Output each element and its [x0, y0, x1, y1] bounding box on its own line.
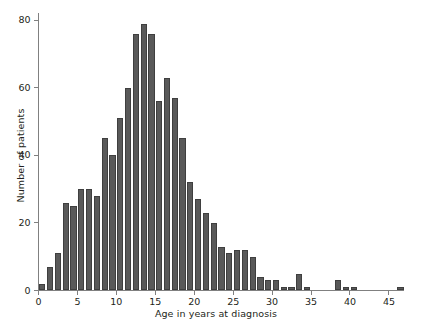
histogram-bar [172, 98, 178, 291]
x-tick [233, 291, 234, 295]
histogram-bar [242, 250, 248, 291]
x-tick-label: 40 [335, 297, 365, 307]
histogram-bar [304, 287, 310, 290]
histogram-bar [397, 287, 403, 290]
x-tick-label: 25 [218, 297, 248, 307]
y-tick-label: 80 [0, 15, 31, 25]
x-tick-label: 5 [62, 297, 92, 307]
y-tick-label: 60 [0, 83, 31, 93]
histogram-bar [179, 138, 185, 290]
histogram-bar [187, 182, 193, 290]
histogram-bar [250, 257, 256, 291]
histogram-bar [164, 78, 170, 291]
histogram-bar [226, 253, 232, 290]
histogram-bar [47, 267, 53, 291]
histogram-bar [117, 118, 123, 290]
histogram-bar [125, 88, 131, 291]
histogram-bar [148, 34, 154, 291]
plot-area: 020406080 051015202530354045 [0, 0, 434, 329]
y-tick-label: 40 [0, 150, 31, 160]
y-axis-line [38, 13, 39, 291]
histogram-bar [70, 206, 76, 290]
histogram-bar [156, 101, 162, 290]
histogram-bar [343, 287, 349, 290]
histogram-bar [265, 280, 271, 290]
histogram-figure: Number of patients Age in years at diagn… [0, 0, 434, 329]
y-tick-label: 0 [0, 286, 31, 296]
x-tick [349, 291, 350, 295]
x-tick [388, 291, 389, 295]
x-tick-label: 45 [374, 297, 404, 307]
x-tick-label: 0 [24, 297, 54, 307]
histogram-bar [281, 287, 287, 290]
histogram-bar [234, 250, 240, 291]
x-tick [38, 291, 39, 295]
histogram-bar [257, 277, 263, 291]
x-tick-label: 10 [101, 297, 131, 307]
x-tick-label: 15 [140, 297, 170, 307]
x-tick-label: 35 [296, 297, 326, 307]
histogram-bar [94, 196, 100, 291]
histogram-bar [288, 287, 294, 290]
x-tick [194, 291, 195, 295]
histogram-bar [203, 213, 209, 291]
x-tick [272, 291, 273, 295]
histogram-bar [335, 280, 341, 290]
x-tick-label: 30 [257, 297, 287, 307]
histogram-bar [218, 247, 224, 291]
histogram-bar [211, 223, 217, 291]
x-tick [116, 291, 117, 295]
histogram-bar [78, 189, 84, 290]
y-tick [34, 20, 38, 21]
histogram-bar [63, 203, 69, 291]
histogram-bar [195, 199, 201, 290]
y-tick [34, 155, 38, 156]
histogram-bar [102, 138, 108, 290]
x-tick [77, 291, 78, 295]
histogram-bar [273, 280, 279, 290]
histogram-bar [296, 274, 302, 291]
histogram-bar [109, 155, 115, 290]
histogram-bar [141, 24, 147, 291]
histogram-bar [39, 284, 45, 291]
x-tick [311, 291, 312, 295]
x-tick-label: 20 [179, 297, 209, 307]
histogram-bar [86, 189, 92, 290]
x-tick [155, 291, 156, 295]
y-tick [34, 222, 38, 223]
y-tick-label: 20 [0, 218, 31, 228]
y-tick [34, 87, 38, 88]
histogram-bar [133, 34, 139, 291]
histogram-bar [55, 253, 61, 290]
histogram-bar [351, 287, 357, 290]
